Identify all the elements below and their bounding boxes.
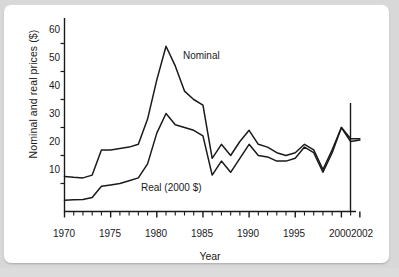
window-bottom-bar (0, 268, 399, 277)
x-tick-label: 1980 (134, 228, 178, 239)
y-tick-label: 50 (34, 52, 60, 63)
x-tick-label: 1970 (42, 228, 86, 239)
x-tick-label: 1975 (88, 228, 132, 239)
series-label-nominal: Nominal (183, 50, 220, 61)
x-tick-label: 1985 (180, 228, 224, 239)
series-paths (65, 46, 360, 200)
axis-lines (65, 18, 357, 212)
y-tick-label: 30 (34, 108, 60, 119)
y-tick-label: 40 (34, 80, 60, 91)
y-tick-label: 20 (34, 136, 60, 147)
y-tick-label: 10 (34, 164, 60, 175)
x-tick-label: 2002 (340, 228, 384, 239)
x-tick-marks (65, 212, 360, 218)
screenshot-root: Nominal and real prices ($) Year 60 50 4… (0, 0, 399, 277)
chart-figure: Nominal and real prices ($) Year 60 50 4… (0, 0, 399, 277)
x-tick-label: 1990 (226, 228, 270, 239)
x-axis-title: Year (64, 250, 356, 262)
series-label-real: Real (2000 $) (141, 182, 202, 193)
x-tick-label: 1995 (272, 228, 316, 239)
y-tick-label: 60 (34, 24, 60, 35)
